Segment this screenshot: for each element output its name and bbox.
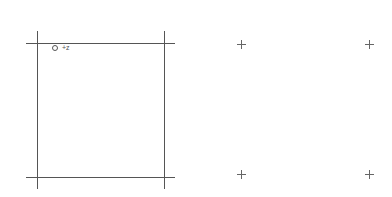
frame-top-line [26,43,175,44]
origin-circle-icon [52,45,58,51]
crosshair-icon [365,40,374,49]
frame-bottom-line [26,177,175,178]
z-axis-label: +z [62,44,70,52]
crosshair-icon [365,170,374,179]
frame-left-line [37,31,38,189]
crosshair-icon [237,40,246,49]
crosshair-icon [237,170,246,179]
diagram-canvas: +z [0,0,392,197]
frame-right-line [164,31,165,189]
